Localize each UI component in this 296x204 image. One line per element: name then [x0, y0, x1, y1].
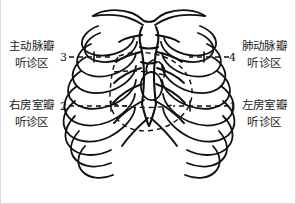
label-aortic-valve-line1: 主动脉瓣 — [9, 38, 54, 55]
anatomy-figure: 主动脉瓣 听诊区 右房室瓣 听诊区 肺动脉瓣 听诊区 左房室瓣 听诊区 3 2 … — [0, 0, 296, 204]
callout-number-2: 2 — [60, 100, 67, 113]
costal-cartilages — [113, 35, 185, 146]
callout-number-4: 4 — [229, 51, 236, 64]
label-mitral-valve: 左房室瓣 听诊区 — [242, 97, 287, 131]
label-mitral-valve-line1: 左房室瓣 — [242, 97, 287, 114]
label-pulmonary-valve-line2: 听诊区 — [242, 55, 287, 72]
label-tricuspid-valve-line1: 右房室瓣 — [9, 97, 54, 114]
left-ribs-group — [64, 26, 137, 178]
label-pulmonary-valve-line1: 肺动脉瓣 — [242, 38, 287, 55]
label-tricuspid-valve-line2: 听诊区 — [9, 114, 54, 131]
label-mitral-valve-line2: 听诊区 — [242, 114, 287, 131]
label-tricuspid-valve: 右房室瓣 听诊区 — [9, 97, 54, 131]
callout-number-1: 1 — [229, 100, 236, 113]
label-pulmonary-valve: 肺动脉瓣 听诊区 — [242, 38, 287, 72]
clavicles — [93, 10, 205, 25]
callout-number-3: 3 — [60, 51, 67, 64]
label-aortic-valve: 主动脉瓣 听诊区 — [9, 38, 54, 72]
sternum — [140, 27, 159, 126]
label-aortic-valve-line2: 听诊区 — [9, 55, 54, 72]
right-ribs-group — [161, 26, 234, 178]
